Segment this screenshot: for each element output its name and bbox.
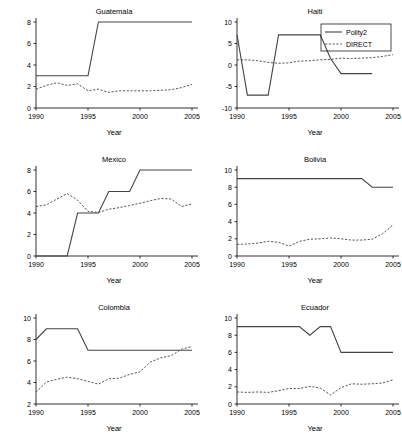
x-tick-label: 2000: [333, 113, 349, 120]
chart-panel-colombia: 2468101990199520002005ColombiaYear: [0, 296, 201, 444]
series-line-direct: [36, 194, 192, 213]
panel-title: Haiti: [307, 7, 322, 16]
y-tick-label: 4: [27, 210, 31, 217]
x-tick-label: 1990: [229, 113, 245, 120]
y-tick-label: 2: [27, 401, 31, 408]
chart-panel-bolivia: 02468101990199520002005BoliviaYear: [201, 148, 402, 296]
x-tick-label: 2000: [132, 113, 148, 120]
x-tick-label: 1995: [281, 261, 297, 268]
x-axis-title: Year: [106, 424, 122, 433]
x-axis-title: Year: [106, 276, 122, 285]
x-tick-label: 2005: [184, 261, 200, 268]
y-tick-label: 4: [228, 366, 232, 373]
x-tick-label: 2000: [333, 409, 349, 416]
multi-panel-chart-figure: 024681990199520002005GuatemalaYear-10-50…: [0, 0, 402, 444]
panel-title: Bolivia: [304, 155, 327, 164]
x-tick-label: 1990: [28, 409, 44, 416]
y-tick-label: 6: [228, 349, 232, 356]
chart-panel-mexico: 024681990199520002005MexicoYear: [0, 148, 201, 296]
x-tick-label: 1995: [80, 113, 96, 120]
y-tick-label: 8: [228, 184, 232, 191]
y-tick-label: -5: [226, 83, 232, 90]
panel-title: Ecuador: [301, 303, 329, 312]
series-line-direct: [237, 380, 393, 395]
y-tick-label: 10: [224, 19, 232, 26]
chart-svg-haiti: -10-505101990199520002005HaitiYearPolity…: [201, 0, 402, 148]
x-tick-label: 2005: [184, 113, 200, 120]
x-tick-label: 2005: [184, 409, 200, 416]
y-tick-label: 4: [27, 62, 31, 69]
legend-label-direct: DIRECT: [346, 41, 373, 48]
x-tick-label: 2000: [132, 261, 148, 268]
y-tick-label: 8: [27, 336, 31, 343]
x-tick-label: 2000: [132, 409, 148, 416]
panel-title: Mexico: [102, 155, 126, 164]
y-tick-label: 2: [228, 235, 232, 242]
x-tick-label: 1995: [281, 409, 297, 416]
x-tick-label: 1990: [229, 409, 245, 416]
y-tick-label: 4: [228, 218, 232, 225]
y-tick-label: 5: [228, 40, 232, 47]
x-tick-label: 1995: [80, 261, 96, 268]
chart-svg-ecuador: 02468101990199520002005EcuadorYear: [201, 296, 402, 444]
series-line-direct: [36, 83, 192, 93]
x-tick-label: 2005: [385, 409, 401, 416]
series-line-polity2: [237, 179, 393, 188]
series-line-polity2: [36, 329, 192, 351]
chart-svg-colombia: 2468101990199520002005ColombiaYear: [0, 296, 201, 444]
x-axis-title: Year: [307, 424, 323, 433]
y-tick-label: 8: [27, 167, 31, 174]
x-tick-label: 2000: [333, 261, 349, 268]
y-tick-label: 10: [23, 315, 31, 322]
x-tick-label: 1995: [80, 409, 96, 416]
y-tick-label: 8: [228, 332, 232, 339]
x-axis-title: Year: [307, 128, 323, 137]
series-line-direct: [237, 225, 393, 246]
chart-panel-guatemala: 024681990199520002005GuatemalaYear: [0, 0, 201, 148]
y-tick-label: 6: [27, 188, 31, 195]
panel-title: Guatemala: [96, 7, 134, 16]
legend-label-polity2: Polity2: [346, 29, 367, 37]
x-tick-label: 1990: [229, 261, 245, 268]
y-tick-label: 6: [27, 40, 31, 47]
chart-svg-bolivia: 02468101990199520002005BoliviaYear: [201, 148, 402, 296]
y-tick-label: -10: [222, 105, 232, 112]
series-line-direct: [36, 346, 192, 392]
y-tick-label: 8: [27, 19, 31, 26]
y-tick-label: 4: [27, 379, 31, 386]
y-tick-label: 6: [27, 358, 31, 365]
y-tick-label: 2: [27, 83, 31, 90]
x-tick-label: 1990: [28, 261, 44, 268]
x-axis-title: Year: [307, 276, 323, 285]
y-tick-label: 0: [228, 253, 232, 260]
chart-svg-guatemala: 024681990199520002005GuatemalaYear: [0, 0, 201, 148]
y-tick-label: 6: [228, 201, 232, 208]
y-tick-label: 2: [228, 383, 232, 390]
series-line-polity2: [237, 327, 393, 353]
x-tick-label: 1995: [281, 113, 297, 120]
y-tick-label: 0: [27, 253, 31, 260]
x-tick-label: 1990: [28, 113, 44, 120]
panel-title: Colombia: [98, 303, 131, 312]
y-tick-label: 10: [224, 315, 232, 322]
series-line-direct: [237, 55, 393, 64]
chart-panel-ecuador: 02468101990199520002005EcuadorYear: [201, 296, 402, 444]
chart-panel-haiti: -10-505101990199520002005HaitiYearPolity…: [201, 0, 402, 148]
y-tick-label: 10: [224, 167, 232, 174]
series-line-polity2: [36, 170, 192, 256]
y-tick-label: 0: [228, 401, 232, 408]
chart-svg-mexico: 024681990199520002005MexicoYear: [0, 148, 201, 296]
y-tick-label: 0: [27, 105, 31, 112]
y-tick-label: 0: [228, 62, 232, 69]
series-line-polity2: [36, 22, 192, 76]
x-axis-title: Year: [106, 128, 122, 137]
x-tick-label: 2005: [385, 113, 401, 120]
y-tick-label: 2: [27, 231, 31, 238]
x-tick-label: 2005: [385, 261, 401, 268]
